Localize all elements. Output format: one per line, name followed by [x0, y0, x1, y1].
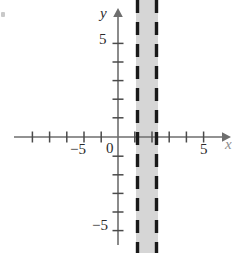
- y-tick-label-negative-5: −5: [92, 218, 108, 233]
- x-tick-label-5: 5: [200, 142, 208, 157]
- origin-label: 0: [106, 141, 114, 156]
- coordinate-plane: [0, 0, 232, 253]
- y-axis-label: y: [100, 6, 107, 21]
- y-axis-arrowhead: [113, 8, 123, 17]
- x-tick-label-negative-5: −5: [70, 142, 86, 157]
- y-tick-label-5: 5: [99, 32, 107, 47]
- graph-figure: y x 5 −5 −5 5 0: [0, 0, 232, 253]
- shaded-region-band: [136, 0, 158, 253]
- x-axis: [14, 132, 231, 142]
- x-axis-label: x: [225, 137, 232, 152]
